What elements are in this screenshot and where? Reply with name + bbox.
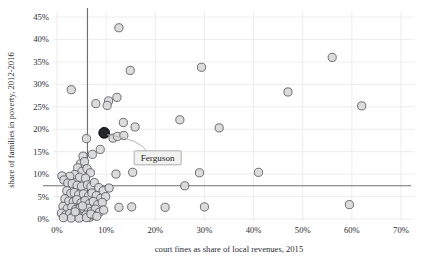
y-tick-label: 0% [38, 214, 49, 224]
x-tick-label: 70% [393, 225, 409, 235]
data-point [215, 124, 223, 132]
y-tick-label: 20% [33, 124, 49, 134]
data-point [284, 88, 292, 96]
y-tick-label: 40% [33, 34, 49, 44]
data-point [78, 202, 86, 210]
y-axis-ticks: 0%5%10%15%20%25%30%35%40%45% [33, 12, 49, 224]
y-tick-label: 35% [33, 57, 49, 67]
data-point [345, 201, 353, 209]
x-tick-label: 10% [98, 225, 114, 235]
data-points [57, 24, 365, 223]
x-axis-ticks: 0%10%20%30%40%50%60%70% [51, 225, 409, 235]
data-point [113, 93, 121, 101]
data-point [88, 150, 96, 158]
y-tick-label: 10% [33, 169, 49, 179]
x-axis-label: court fines as share of local revenues, … [155, 244, 303, 254]
data-point [112, 170, 120, 178]
data-point [96, 145, 104, 153]
data-point [71, 208, 79, 216]
x-tick-label: 30% [197, 225, 213, 235]
data-point [82, 135, 90, 143]
data-point [131, 123, 139, 131]
y-tick-label: 5% [38, 192, 49, 202]
data-point [59, 214, 67, 222]
data-point [200, 203, 208, 211]
data-point [103, 101, 111, 109]
x-tick-label: 20% [147, 225, 163, 235]
data-point [328, 53, 336, 61]
data-point [115, 203, 123, 211]
scatter-chart: 0%10%20%30%40%50%60%70% 0%5%10%15%20%25%… [0, 0, 422, 262]
data-point [176, 116, 184, 124]
chart-canvas: 0%10%20%30%40%50%60%70% 0%5%10%15%20%25%… [0, 0, 422, 262]
data-point [98, 198, 106, 206]
data-point-ferguson [99, 127, 110, 138]
data-point [100, 206, 108, 214]
x-tick-label: 40% [246, 225, 262, 235]
data-point [128, 203, 136, 211]
x-tick-label: 50% [295, 225, 311, 235]
y-axis-label: share of families in poverty, 2012-2016 [6, 52, 16, 188]
x-tick-label: 60% [344, 225, 360, 235]
data-point [67, 86, 75, 94]
y-tick-label: 30% [33, 79, 49, 89]
callout-label: Ferguson [141, 153, 175, 163]
data-point [92, 100, 100, 108]
data-point [195, 169, 203, 177]
data-point [161, 203, 169, 211]
x-tick-label: 0% [51, 225, 62, 235]
y-tick-label: 25% [33, 102, 49, 112]
data-point [126, 66, 134, 74]
y-tick-label: 15% [33, 147, 49, 157]
y-tick-label: 45% [33, 12, 49, 22]
data-point [129, 168, 137, 176]
data-point [358, 102, 366, 110]
data-point [181, 182, 189, 190]
data-point [93, 212, 101, 220]
data-point [105, 184, 113, 192]
data-point [197, 63, 205, 71]
data-point [119, 118, 127, 126]
data-point [115, 24, 123, 32]
data-point [254, 168, 262, 176]
